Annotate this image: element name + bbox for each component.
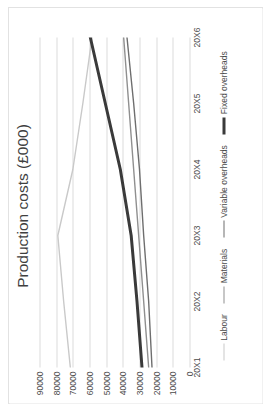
legend-label: Variable overheads xyxy=(218,145,228,218)
legend-item[interactable]: Variable overheads xyxy=(218,145,228,238)
y-tick-label: 50000 xyxy=(101,371,111,395)
line-chart: Production costs (£000) 0100002000030000… xyxy=(9,8,262,403)
x-tick-label: 20X3 xyxy=(191,225,201,245)
legend-label: Fixed overheads xyxy=(218,51,228,114)
series-line xyxy=(90,37,142,367)
legend-line-swatch xyxy=(223,343,224,360)
x-tick-label: 20X5 xyxy=(191,93,201,113)
x-tick-label: 20X2 xyxy=(191,291,201,311)
legend-item[interactable]: Materials xyxy=(218,248,228,302)
legend-label: Labour xyxy=(218,314,228,340)
legend-line-swatch xyxy=(223,220,224,237)
x-tick-label: 20X6 xyxy=(191,27,201,47)
y-tick-label: 70000 xyxy=(67,371,77,395)
legend-item[interactable]: Labour xyxy=(218,314,228,360)
legend-line-swatch xyxy=(223,286,224,303)
series-line xyxy=(57,37,91,367)
y-tick-label: 10000 xyxy=(167,371,177,395)
series-lines xyxy=(39,37,189,367)
y-tick-label: 90000 xyxy=(34,371,44,395)
chart-title: Production costs (£000) xyxy=(13,8,31,403)
legend-item[interactable]: Fixed overheads xyxy=(218,51,228,134)
x-tick-label: 20X1 xyxy=(191,357,201,377)
y-tick-label: 20000 xyxy=(151,371,161,395)
y-tick-label: 60000 xyxy=(84,371,94,395)
chart-legend: LabourMaterialsVariable overheadsFixed o… xyxy=(213,8,233,403)
x-tick-label: 20X4 xyxy=(191,159,201,179)
y-axis-tick-labels: 0100002000030000400005000060000700008000… xyxy=(39,369,189,403)
plot-area xyxy=(39,37,189,367)
y-tick-label: 40000 xyxy=(117,371,127,395)
x-axis-tick-labels: 20X120X220X320X420X520X6 xyxy=(191,37,207,367)
y-tick-label: 80000 xyxy=(51,371,61,395)
y-tick-label: 30000 xyxy=(134,371,144,395)
legend-line-swatch xyxy=(222,117,225,134)
rotated-chart-container: Production costs (£000) 0100002000030000… xyxy=(8,7,263,404)
chart-page: Production costs (£000) 0100002000030000… xyxy=(0,0,273,413)
legend-label: Materials xyxy=(218,248,228,282)
